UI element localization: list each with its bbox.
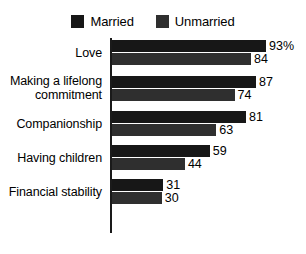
bars-having-children: 59 44 [112,145,306,170]
chart-legend: Married Unmarried [0,15,306,28]
bar-group-companionship: Companionship 81 63 [0,111,306,136]
bar-married-financial-stability [112,179,163,191]
legend-label-unmarried: Unmarried [175,15,235,28]
category-label-line2: commitment [0,88,102,102]
bar-unmarried-commitment [112,89,235,101]
bar-group-having-children: Having children 59 44 [0,145,306,170]
bar-row-unmarried: 84 [112,53,306,65]
legend-entry-unmarried: Unmarried [156,15,235,28]
bar-value-married-financial-stability: 31 [166,179,180,191]
bar-group-financial-stability: Financial stability 31 30 [0,179,306,204]
category-label-line1: Having children [0,151,102,165]
bar-value-married-commitment: 87 [259,76,273,88]
bars-commitment: 87 74 [112,76,306,101]
bar-row-married: 31 [112,179,306,191]
legend-entry-married: Married [71,15,133,28]
bar-value-unmarried-companionship: 63 [219,124,233,136]
category-label-commitment: Making a lifelong commitment [0,74,106,102]
bar-groups: Love 93% 84 Making a lifelong commi [0,40,306,213]
bar-value-married-love: 93% [269,40,294,52]
bar-row-married: 87 [112,76,306,88]
bar-row-unmarried: 63 [112,124,306,136]
bar-value-married-companionship: 81 [249,111,263,123]
bar-row-unmarried: 74 [112,89,306,101]
bar-unmarried-financial-stability [112,192,162,204]
bar-row-unmarried: 30 [112,192,306,204]
category-label-having-children: Having children [0,151,106,165]
bar-married-having-children [112,145,210,157]
bar-group-love: Love 93% 84 [0,40,306,65]
category-label-financial-stability: Financial stability [0,185,106,199]
category-label-love: Love [0,46,106,60]
bar-married-commitment [112,76,256,88]
bar-row-married: 81 [112,111,306,123]
bar-married-companionship [112,111,246,123]
category-label-line1: Making a lifelong [0,74,102,88]
bar-group-commitment: Making a lifelong commitment 87 74 [0,74,306,102]
bar-row-unmarried: 44 [112,158,306,170]
category-label-companionship: Companionship [0,117,106,131]
bar-row-married: 59 [112,145,306,157]
bars-companionship: 81 63 [112,111,306,136]
bars-love: 93% 84 [112,40,306,65]
bar-unmarried-companionship [112,124,216,136]
legend-label-married: Married [90,15,133,28]
bar-unmarried-love [112,53,251,65]
legend-swatch-unmarried-icon [156,15,169,28]
category-label-line1: Companionship [0,117,102,131]
bar-married-love [112,40,266,52]
legend-swatch-married-icon [71,15,84,28]
bar-value-unmarried-financial-stability: 30 [165,192,179,204]
bar-value-unmarried-having-children: 44 [188,158,202,170]
category-label-line1: Love [0,46,102,60]
bar-unmarried-having-children [112,158,185,170]
bar-value-unmarried-love: 84 [254,53,268,65]
bars-financial-stability: 31 30 [112,179,306,204]
bar-value-married-having-children: 59 [213,145,227,157]
category-label-line1: Financial stability [0,185,102,199]
plot-area: Love 93% 84 Making a lifelong commi [0,38,306,238]
chart-container: Married Unmarried Love 93% [0,0,306,254]
bar-row-married: 93% [112,40,306,52]
bar-value-unmarried-commitment: 74 [238,89,252,101]
